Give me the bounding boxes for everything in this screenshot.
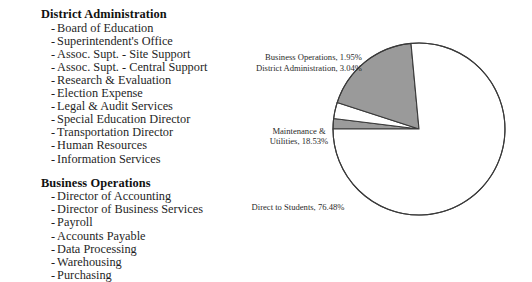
list-item-label: Purchasing <box>57 268 112 282</box>
list-item-label: Superintendent's Office <box>57 34 173 48</box>
list-item-label: Accounts Payable <box>57 229 145 243</box>
list-item-label: Legal & Audit Services <box>57 99 173 113</box>
bullet-dash: - <box>51 202 55 216</box>
bullet-dash: - <box>51 138 55 152</box>
list-item-label: Warehousing <box>57 255 122 269</box>
list-item-label: Election Expense <box>57 86 143 100</box>
pie-label-maintenance-line2: Utilities, 18.53% <box>250 137 348 147</box>
list-item-label: Human Resources <box>57 138 147 152</box>
list-item-label: Research & Evaluation <box>57 73 171 87</box>
bullet-dash: - <box>51 189 55 203</box>
list-item-label: Data Processing <box>57 242 137 256</box>
list-item-label: Assoc. Supt. - Site Support <box>57 47 190 61</box>
pie-label-district-administration: District Administration, 3.04% <box>210 64 362 74</box>
bullet-dash: - <box>51 215 55 229</box>
bullet-dash: - <box>51 47 55 61</box>
list-item-label: Payroll <box>57 215 93 229</box>
pie-label-maintenance-utilities: Maintenance & Utilities, 18.53% <box>250 127 348 147</box>
pie-chart-figure: Business Operations, 1.95% District Admi… <box>210 0 532 282</box>
list-item-label: Special Education Director <box>57 112 190 126</box>
bullet-dash: - <box>51 242 55 256</box>
bullet-dash: - <box>51 21 55 35</box>
bullet-dash: - <box>51 73 55 87</box>
list-item-label: Information Services <box>57 152 160 166</box>
pie-label-direct-to-students: Direct to Students, 76.48% <box>228 203 368 213</box>
bullet-dash: - <box>51 34 55 48</box>
list-item-label: Assoc. Supt. - Central Support <box>57 60 207 74</box>
pie-label-business-operations: Business Operations, 1.95% <box>210 53 362 63</box>
list-item-label: Director of Accounting <box>57 189 171 203</box>
bullet-dash: - <box>51 229 55 243</box>
bullet-dash: - <box>51 152 55 166</box>
list-item-label: Board of Education <box>57 21 153 35</box>
list-item-label: Transportation Director <box>57 125 173 139</box>
bullet-dash: - <box>51 125 55 139</box>
list-item-label: Director of Business Services <box>57 202 203 216</box>
bullet-dash: - <box>51 112 55 126</box>
bullet-dash: - <box>51 268 55 282</box>
bullet-dash: - <box>51 60 55 74</box>
bullet-dash: - <box>51 255 55 269</box>
bullet-dash: - <box>51 86 55 100</box>
bullet-dash: - <box>51 99 55 113</box>
